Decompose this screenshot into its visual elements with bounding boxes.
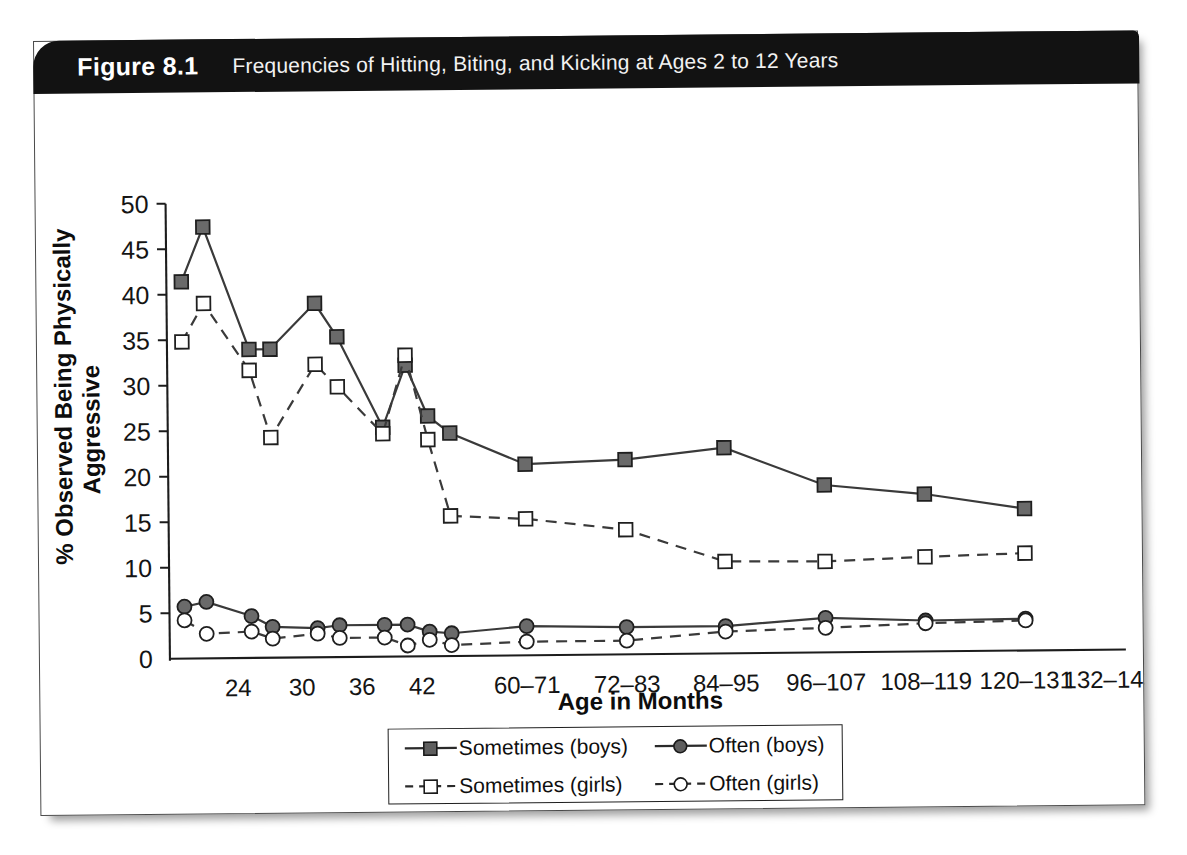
y-tick-label: 35	[122, 326, 150, 354]
x-axis-title: Age in Months	[558, 686, 724, 715]
legend-swatch-filled-circle-solid	[653, 736, 709, 757]
data-point-marker	[200, 627, 214, 641]
data-point-marker	[175, 335, 189, 349]
legend-item-often-boys[interactable]: Often (boys)	[653, 732, 825, 758]
data-point-marker	[196, 220, 210, 234]
data-point-marker	[376, 427, 390, 441]
data-point-marker	[819, 621, 833, 635]
legend-swatch-open-circle-dashed	[653, 774, 709, 795]
data-point-marker	[519, 512, 533, 526]
data-point-marker	[178, 613, 192, 627]
data-point-marker	[919, 616, 933, 630]
legend-item-sometimes-boys[interactable]: Sometimes (boys)	[403, 734, 653, 760]
series-line-0	[181, 219, 1025, 516]
legend-row-1: Sometimes (boys) Often (boys)	[389, 725, 842, 767]
data-point-marker	[718, 555, 732, 569]
data-point-marker	[918, 550, 932, 564]
data-point-marker	[378, 630, 392, 644]
data-point-marker	[245, 624, 259, 638]
data-point-marker	[401, 638, 415, 652]
data-point-marker	[717, 441, 731, 455]
x-tick-label: 108–119	[880, 667, 972, 695]
legend-label-sometimes-girls: Sometimes (girls)	[459, 772, 623, 798]
data-point-marker	[311, 627, 325, 641]
figure-title-banner: Figure 8.1 Frequencies of Hitting, Bitin…	[33, 30, 1139, 94]
y-tick-label: 20	[123, 463, 151, 491]
legend-item-often-girls[interactable]: Often (girls)	[653, 770, 819, 796]
y-tick-label: 10	[124, 554, 152, 582]
y-tick-label: 25	[123, 417, 151, 445]
y-axis-title: % Observed Being Physically Aggressive	[48, 228, 106, 565]
data-point-marker	[918, 487, 932, 501]
legend-row-2: Sometimes (girls) Often (girls)	[389, 763, 842, 805]
data-point-marker	[520, 619, 534, 633]
data-point-marker	[308, 296, 322, 310]
data-point-marker	[421, 433, 435, 447]
y-tick-label: 5	[138, 599, 152, 627]
y-tick-label: 15	[124, 508, 152, 536]
data-point-marker	[444, 509, 458, 523]
x-tick-label: 30	[289, 673, 316, 700]
figure-number: Figure 8.1	[77, 51, 198, 81]
legend-label-sometimes-boys: Sometimes (boys)	[459, 734, 628, 760]
legend-swatch-filled-square-solid	[403, 738, 459, 759]
data-point-marker	[421, 409, 435, 423]
y-tick-label: 45	[121, 235, 149, 263]
x-tick-label: 120–131	[979, 666, 1073, 694]
data-point-marker	[443, 426, 457, 440]
series-line-1	[182, 296, 1025, 568]
data-point-marker	[1018, 546, 1032, 560]
data-point-marker	[817, 478, 831, 492]
figure-card: Figure 8.1 Frequencies of Hitting, Bitin…	[33, 30, 1145, 816]
y-tick-label: 40	[121, 281, 149, 309]
data-point-marker	[620, 620, 634, 634]
x-tick-label: 36	[349, 673, 376, 700]
y-axis: 05101520253035404550	[121, 190, 170, 673]
data-point-marker	[264, 431, 278, 445]
data-point-marker	[620, 634, 634, 648]
y-tick-label: 30	[122, 372, 150, 400]
data-point-marker	[263, 342, 277, 356]
legend-label-often-boys: Often (boys)	[709, 732, 825, 757]
data-point-marker	[244, 609, 258, 623]
data-point-marker	[398, 348, 412, 362]
data-point-marker	[518, 457, 532, 471]
data-point-marker	[520, 635, 534, 649]
y-axis-title-line1: % Observed Being Physically	[48, 228, 78, 565]
data-point-marker	[423, 633, 437, 647]
x-tick-label: 42	[409, 672, 436, 699]
data-point-marker	[330, 330, 344, 344]
data-point-marker	[177, 600, 191, 614]
data-point-marker	[197, 297, 211, 311]
data-point-marker	[174, 275, 188, 289]
data-point-marker	[330, 380, 344, 394]
x-tick-label: 60–71	[494, 671, 561, 699]
data-point-marker	[266, 632, 280, 646]
y-tick-label: 50	[121, 190, 149, 218]
data-series-group	[174, 212, 1033, 654]
y-axis-title-line2: Aggressive	[77, 365, 105, 495]
chart-legend: Sometimes (boys) Often (boys)	[388, 724, 844, 804]
data-point-marker	[619, 523, 633, 537]
legend-swatch-open-square-dashed	[403, 776, 459, 797]
page-root: Figure 8.1 Frequencies of Hitting, Bitin…	[0, 0, 1187, 855]
x-tick-label: 24	[225, 674, 252, 701]
x-tick-label: 132–143	[1063, 665, 1144, 693]
data-point-marker	[818, 555, 832, 569]
data-point-marker	[401, 618, 415, 632]
data-point-marker	[618, 453, 632, 467]
data-point-marker	[445, 638, 459, 652]
legend-item-sometimes-girls[interactable]: Sometimes (girls)	[403, 772, 653, 798]
data-point-marker	[333, 631, 347, 645]
figure-caption: Frequencies of Hitting, Biting, and Kick…	[232, 48, 838, 78]
x-tick-label: 96–107	[786, 668, 866, 696]
data-point-marker	[199, 595, 213, 609]
data-point-marker	[719, 624, 733, 638]
plot-body: 05101520253035404550 2430364260–7172–838…	[35, 84, 1146, 816]
data-point-marker	[242, 343, 256, 357]
legend-label-often-girls: Often (girls)	[709, 770, 819, 795]
data-point-marker	[1018, 502, 1032, 516]
data-point-marker	[242, 364, 256, 378]
data-point-marker	[308, 357, 322, 371]
line-chart: 05101520253035404550 2430364260–7172–838…	[35, 84, 1145, 735]
